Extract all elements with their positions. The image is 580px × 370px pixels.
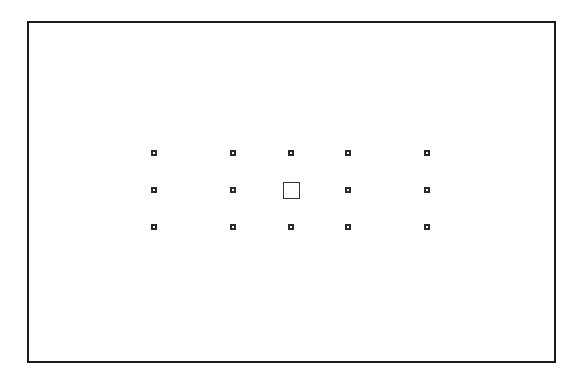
- af-point-icon: [230, 187, 236, 193]
- af-point-icon: [345, 150, 351, 156]
- af-point-icon: [151, 150, 157, 156]
- af-point-icon: [424, 150, 430, 156]
- af-point-center-icon: [283, 182, 300, 199]
- af-point-icon: [288, 150, 294, 156]
- af-point-icon: [424, 187, 430, 193]
- af-point-icon: [230, 224, 236, 230]
- af-point-icon: [151, 187, 157, 193]
- af-point-icon: [151, 224, 157, 230]
- af-point-icon: [345, 187, 351, 193]
- af-point-icon: [424, 224, 430, 230]
- af-point-icon: [288, 224, 294, 230]
- af-point-icon: [230, 150, 236, 156]
- af-point-icon: [345, 224, 351, 230]
